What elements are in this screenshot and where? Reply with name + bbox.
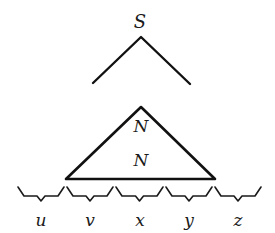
segment-label-u: u	[36, 210, 47, 230]
underbrace-x	[116, 187, 163, 201]
segment-label-x: x	[135, 210, 145, 230]
diagram-canvas: S N N u v x y z	[0, 0, 275, 233]
segment-braces	[18, 187, 261, 201]
segment-labels: u v x y z	[36, 210, 244, 230]
segment-label-v: v	[85, 210, 95, 230]
underbrace-z	[215, 187, 261, 201]
root-branches	[93, 37, 190, 84]
lower-node-label-n: N	[133, 150, 150, 170]
segment-label-y: y	[183, 210, 194, 230]
underbrace-v	[67, 187, 113, 201]
underbrace-y	[166, 187, 212, 201]
parse-tree-diagram: S N N u v x y z	[0, 0, 275, 233]
root-label-s: S	[134, 11, 146, 32]
upper-node-label-n: N	[133, 116, 150, 136]
underbrace-u	[18, 187, 64, 201]
segment-label-z: z	[233, 210, 244, 230]
